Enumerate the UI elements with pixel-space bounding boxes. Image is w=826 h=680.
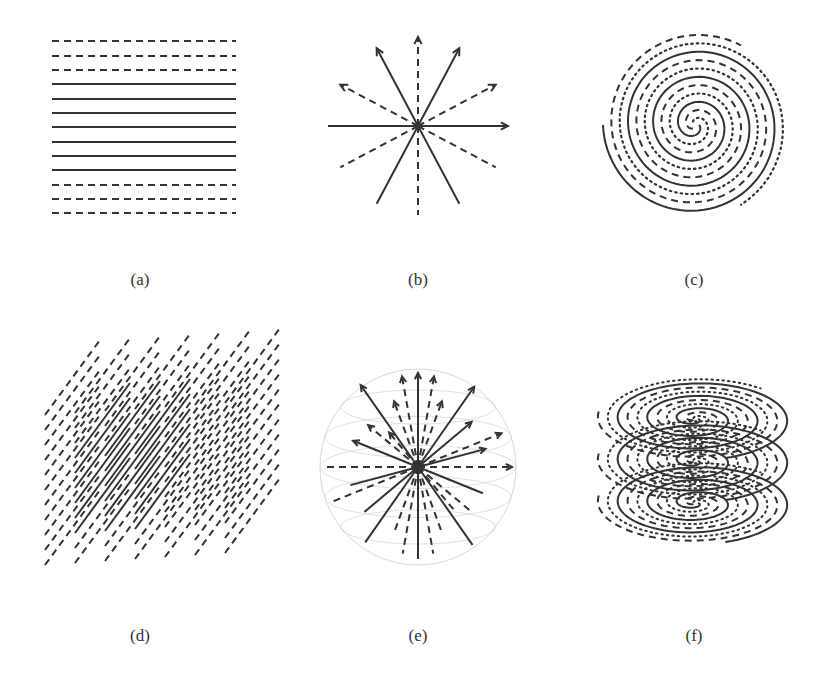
panel-d-3d-parallel-lines [30, 370, 260, 570]
panel-label-b: (b) [408, 270, 428, 290]
panel-label-a: (a) [131, 270, 150, 290]
panel-label-d: (d) [130, 626, 150, 646]
stacked-spirals-diagram [595, 375, 805, 575]
panel-e-3d-radial [315, 365, 525, 575]
3d-parallel-lines-diagram [30, 370, 260, 570]
panel-label-f: (f) [686, 626, 703, 646]
panel-b-radial-lines [320, 25, 520, 225]
3d-radial-diagram [315, 365, 525, 575]
spiral-diagram [600, 25, 800, 225]
panel-f-stacked-spirals [595, 375, 805, 575]
panel-c-spiral [600, 25, 800, 225]
panel-a-parallel-lines [50, 35, 240, 225]
panel-label-e: (e) [409, 626, 428, 646]
parallel-lines-diagram [50, 35, 240, 225]
panel-label-c: (c) [685, 270, 704, 290]
radial-lines-diagram [320, 25, 520, 225]
